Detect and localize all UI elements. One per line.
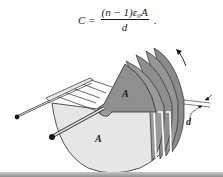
rotation-arrow-icon	[176, 49, 186, 66]
formula-period: .	[154, 14, 157, 26]
formula-lhs: C =	[78, 14, 96, 26]
formula-fraction: (n − 1)ε₀A d	[101, 6, 149, 33]
formula-denominator: d	[122, 20, 128, 33]
label-spacing-d: d	[186, 116, 192, 127]
fixed-terminal-rod	[15, 101, 50, 119]
spacing-dimension	[190, 95, 212, 118]
bottom-divider	[0, 172, 223, 177]
variable-capacitor-diagram: A A d	[0, 36, 223, 172]
label-area-upper: A	[121, 88, 129, 99]
formula-numerator: (n − 1)ε₀A	[101, 6, 149, 20]
label-area-lower: A	[94, 133, 102, 144]
capacitance-formula: C = (n − 1)ε₀A d .	[0, 2, 223, 36]
